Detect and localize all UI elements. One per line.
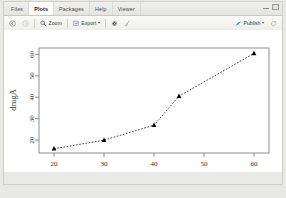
x-tick-label: 30: [101, 160, 109, 168]
x-tick-label: 20: [51, 160, 59, 168]
publish-button-label: Publish: [243, 20, 260, 26]
y-tick-label: 30: [28, 115, 36, 123]
publish-icon: [235, 20, 242, 27]
tab-viewer-label: Viewer: [118, 6, 135, 12]
clear-all-plots-button[interactable]: [122, 18, 133, 29]
export-button-label: Export: [81, 20, 96, 26]
forward-arrow-icon: [22, 20, 29, 27]
data-point-marker: [152, 123, 157, 127]
x-axis: 2030405060: [51, 153, 259, 168]
forward-button[interactable]: [20, 18, 31, 29]
data-point-marker: [177, 94, 182, 98]
back-arrow-icon: [9, 20, 16, 27]
y-axis: 2030405060: [28, 50, 39, 143]
pane-bottom-strip: [4, 172, 282, 184]
magnifier-icon: [40, 20, 47, 27]
broom-icon: [124, 20, 131, 27]
back-button[interactable]: [7, 18, 18, 29]
minimize-icon[interactable]: [263, 5, 269, 9]
chevron-down-icon: ▾: [98, 21, 100, 25]
y-axis-title: drugA: [8, 88, 18, 111]
data-point-marker: [52, 146, 57, 150]
rstudio-plots-pane-screenshot: Files Plots Packages Help Viewer: [0, 0, 286, 198]
toolbar-right-group: Publish ▾: [233, 18, 279, 29]
x-tick-label: 60: [251, 160, 259, 168]
toolbar-separator-3: [105, 19, 106, 28]
toolbar-separator-1: [34, 19, 35, 28]
series-line: [54, 53, 254, 148]
refresh-button[interactable]: [268, 18, 279, 29]
y-tick-label: 20: [28, 136, 36, 144]
tab-viewer[interactable]: Viewer: [113, 2, 141, 15]
tab-plots[interactable]: Plots: [29, 2, 54, 15]
plots-toolbar: Zoom Export ▾: [4, 16, 282, 31]
zoom-button[interactable]: Zoom: [38, 18, 64, 29]
x-tick-label: 40: [151, 160, 159, 168]
export-icon: [73, 20, 80, 27]
tab-files-label: Files: [11, 6, 23, 12]
refresh-icon: [270, 20, 277, 27]
maximize-icon[interactable]: [272, 4, 279, 10]
publish-button[interactable]: Publish ▾: [233, 18, 266, 29]
remove-plot-button[interactable]: [109, 18, 120, 29]
export-button[interactable]: Export ▾: [71, 18, 102, 29]
data-point-marker: [252, 51, 257, 55]
zoom-button-label: Zoom: [49, 20, 62, 26]
r-base-plot: 2030405060 2030405060 dose drugA: [4, 30, 284, 186]
y-tick-label: 50: [28, 72, 36, 80]
x-tick-label: 50: [201, 160, 209, 168]
plot-frame-box: [39, 48, 269, 153]
tab-plots-label: Plots: [34, 6, 48, 12]
toolbar-separator-2: [67, 19, 68, 28]
chevron-down-icon-publish: ▾: [262, 21, 264, 25]
y-tick-label: 60: [28, 50, 36, 58]
plot-canvas[interactable]: 2030405060 2030405060 dose drugA: [4, 30, 282, 184]
tab-packages[interactable]: Packages: [54, 2, 90, 15]
tab-help[interactable]: Help: [90, 2, 113, 15]
plots-pane: Files Plots Packages Help Viewer: [3, 1, 283, 185]
remove-plot-icon: [111, 20, 118, 27]
tab-files[interactable]: Files: [6, 2, 29, 15]
tab-help-label: Help: [95, 6, 107, 12]
y-tick-label: 40: [28, 93, 36, 101]
tab-packages-label: Packages: [59, 6, 84, 12]
window-controls: [263, 4, 279, 10]
series-markers: [52, 51, 257, 151]
pane-tab-strip: Files Plots Packages Help Viewer: [4, 2, 282, 16]
